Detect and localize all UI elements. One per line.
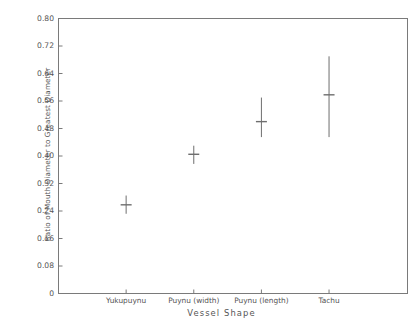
error-bar	[188, 146, 199, 164]
data-series-error-bars	[121, 56, 335, 213]
error-bar	[324, 56, 335, 137]
y-tick-label: 0.72	[37, 42, 54, 50]
y-tick-label: 0.40	[37, 152, 54, 160]
plot-area	[0, 0, 415, 335]
x-tick-label: Yukupuynu	[106, 296, 146, 305]
y-tick-label: 0	[49, 290, 54, 298]
y-tick-label: 0.80	[37, 15, 54, 23]
y-tick-label: 0.24	[37, 207, 54, 215]
y-axis-ticks	[59, 19, 63, 294]
x-tick-label: Tachu	[318, 296, 339, 305]
x-axis-title: Vessel Shape	[0, 308, 415, 318]
x-tick-label: Puynu (length)	[234, 296, 288, 305]
y-tick-label: 0.16	[37, 235, 54, 243]
x-axis-ticks	[126, 290, 329, 294]
y-axis-tick-labels: 00.080.160.240.320.400.480.560.640.720.8…	[18, 0, 54, 335]
error-bar	[256, 98, 267, 138]
y-tick-label: 0.08	[37, 262, 54, 270]
x-tick-label: Puynu (width)	[168, 296, 219, 305]
y-tick-label: 0.56	[37, 97, 54, 105]
y-tick-label: 0.32	[37, 180, 54, 188]
error-bar	[121, 196, 132, 214]
y-tick-label: 0.64	[37, 70, 54, 78]
y-tick-label: 0.48	[37, 125, 54, 133]
axes-frame	[59, 19, 408, 294]
figure: Ratio of Mouth Diameter to Greatest Diam…	[0, 0, 415, 335]
x-axis-title-text: Vessel Shape	[187, 308, 256, 318]
